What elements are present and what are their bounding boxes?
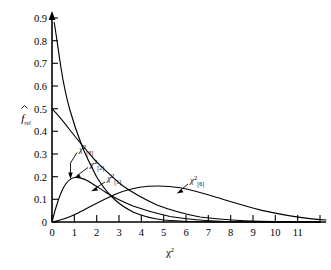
annotation-leaders	[68, 153, 188, 194]
x-tick-label-0: 0	[49, 227, 54, 238]
x-tick-label-11: 11	[293, 227, 303, 238]
x-tick-label-10: 10	[270, 227, 281, 238]
x-tick-labels: 0 1 2 3 4 5 6 7 8 9 10 11	[49, 227, 302, 238]
y-tick-labels: 0 0.1 0.2 0.3 0.4 0.5 0.6 0.7 0.8 0.9	[34, 13, 48, 228]
curve-chi-squared-df1	[54, 23, 320, 223]
curve-label-chi-squared-df3: χ2[3]	[78, 143, 93, 158]
leader-chi6-arrowhead	[177, 189, 184, 193]
y-tick-label-4: 0.4	[34, 126, 48, 137]
chi-squared-density-chart: 0 0.1 0.2 0.3 0.4 0.5 0.6 0.7 0.8 0.9	[0, 0, 331, 270]
leader-chi1-arrowhead	[91, 187, 98, 191]
curve-label-chi2-sup: 2	[94, 158, 97, 165]
x-tick-label-6: 6	[183, 227, 188, 238]
y-axis-title-sub: rel	[24, 120, 31, 126]
y-tick-label-9: 0.9	[34, 13, 47, 24]
y-axis	[49, 11, 56, 222]
y-axis-arrowhead	[49, 11, 56, 20]
x-tick-label-8: 8	[228, 227, 233, 238]
x-tick-label-1: 1	[72, 227, 77, 238]
leader-chi3	[71, 153, 78, 176]
plot-area: 0 0.1 0.2 0.3 0.4 0.5 0.6 0.7 0.8 0.9	[0, 0, 331, 270]
curve-label-chi-squared-df6: χ2[6]	[189, 174, 204, 189]
y-tick-label-2: 0.2	[34, 172, 47, 183]
y-axis-title-hat	[22, 106, 28, 109]
x-tick-label-4: 4	[139, 227, 145, 238]
curve-label-chi1-sup: 2	[111, 172, 114, 179]
leader-chi2	[77, 168, 89, 177]
y-tick-label-7: 0.7	[34, 58, 47, 69]
y-tick-label-1: 0.1	[34, 194, 47, 205]
x-tick-label-5: 5	[161, 227, 166, 238]
curve-label-chi2-sub: [2]	[97, 165, 104, 172]
x-tick-label-7: 7	[206, 227, 211, 238]
curve-label-chi1-sub: [1]	[114, 179, 121, 186]
y-tick-label-8: 0.8	[34, 36, 47, 47]
y-tick-label-5: 0.5	[34, 104, 47, 115]
curve-label-chi3-sup: 2	[83, 143, 86, 150]
curve-label-chi6-sup: 2	[194, 174, 197, 181]
y-tick-label-3: 0.3	[34, 149, 47, 160]
x-tick-label-2: 2	[94, 227, 99, 238]
leader-chi2-arrowhead	[74, 174, 81, 178]
y-axis-title: frel	[21, 106, 31, 127]
y-tick-label-6: 0.6	[34, 81, 47, 92]
y-axis-title-text: frel	[21, 112, 31, 126]
x-axis-title: χ2	[165, 246, 174, 258]
x-tick-label-3: 3	[116, 227, 121, 238]
curve-chi-squared-df6	[52, 186, 326, 222]
x-tick-label-9: 9	[250, 227, 255, 238]
y-tick-marks	[52, 18, 58, 222]
curve-label-chi6-sub: [6]	[197, 181, 204, 188]
curve-label-chi-squared-df1: χ2[1]	[106, 172, 121, 187]
y-tick-label-0: 0	[42, 217, 47, 228]
curve-label-chi-squared-df2: χ2[2]	[89, 158, 104, 173]
x-axis-title-sup: 2	[171, 246, 174, 253]
curve-label-chi3-sub: [3]	[86, 150, 93, 157]
